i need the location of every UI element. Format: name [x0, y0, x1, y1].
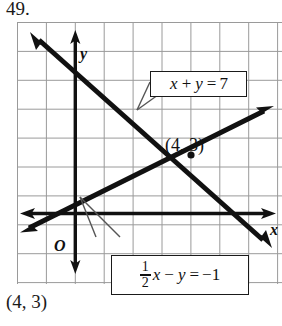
origin-label: O: [54, 237, 66, 255]
equation-1-var-x: x: [169, 74, 179, 94]
equation-2-denominator: 2: [140, 276, 151, 290]
equation-2-var-y: y: [177, 265, 187, 285]
equation-2-fraction: 1 2: [140, 260, 151, 289]
y-axis-label: y: [80, 45, 87, 63]
intersection-point-label: (4, 3): [165, 135, 204, 156]
equation-box-line-2[interactable]: 1 2 x−y=−1: [111, 255, 249, 295]
equation-2-numerator: 1: [140, 260, 151, 274]
equation-1-equals: =: [204, 74, 220, 94]
answer-text: (4, 3): [6, 291, 47, 313]
problem-number: 49.: [6, 0, 30, 20]
equation-2-rhs: −1: [202, 265, 220, 285]
coordinate-graph: x+y=7 1 2 x−y=−1 y x O (4, 3): [17, 22, 282, 284]
equation-1-rhs: 7: [219, 74, 228, 94]
equation-2-operator: −: [161, 265, 177, 285]
figure-container: 49.: [0, 0, 282, 326]
equation-box-line-1[interactable]: x+y=7: [150, 71, 247, 97]
equation-2-var-x: x: [152, 265, 162, 285]
equation-2-equals: =: [187, 265, 203, 285]
x-axis-label: x: [270, 221, 278, 239]
equation-1-var-y: y: [194, 74, 204, 94]
equation-1-operator: +: [179, 74, 195, 94]
